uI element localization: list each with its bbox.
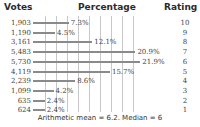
percentage-header: Percentage xyxy=(78,2,136,12)
rating-label: 7 xyxy=(180,48,190,56)
percentage-bar xyxy=(33,71,110,73)
rating-label: 9 xyxy=(180,29,190,37)
gridline xyxy=(133,16,134,112)
percentage-bar xyxy=(33,41,92,43)
percentage-label: 2.4% xyxy=(47,97,65,105)
percentage-label: 4.5% xyxy=(57,29,75,37)
rating-label: 10 xyxy=(180,19,190,27)
percentage-label: 4.2% xyxy=(56,87,74,95)
percentage-label: 12.1% xyxy=(94,38,116,46)
rating-label: 6 xyxy=(180,58,190,66)
gridline xyxy=(100,16,101,112)
summary-statistics: Arithmetic mean = 6.2. Median = 6 xyxy=(0,114,200,122)
percentage-label: 21.9% xyxy=(142,58,164,66)
votes-header: Votes xyxy=(4,2,32,12)
vote-count: 2,239 xyxy=(0,77,31,85)
vote-count: 1,190 xyxy=(0,29,31,37)
gridline xyxy=(78,16,79,112)
vote-count: 5,730 xyxy=(0,58,31,66)
percentage-bar xyxy=(33,22,69,24)
gridline xyxy=(89,16,90,112)
rating-label: 4 xyxy=(180,77,190,85)
vote-count: 4,119 xyxy=(0,68,31,76)
rating-label: 3 xyxy=(180,87,190,95)
rating-header: Rating xyxy=(164,2,197,12)
percentage-bar xyxy=(33,90,54,92)
rating-label: 5 xyxy=(180,68,190,76)
percentage-label: 8.6% xyxy=(77,77,95,85)
percentage-bar xyxy=(33,109,45,111)
percentage-label: 20.9% xyxy=(137,48,159,56)
gridline xyxy=(111,16,112,112)
rating-label: 8 xyxy=(180,38,190,46)
vote-count: 1,903 xyxy=(0,19,31,27)
percentage-label: 7.3% xyxy=(71,19,89,27)
percentage-bar xyxy=(33,51,135,53)
rating-label: 2 xyxy=(180,97,190,105)
vote-count: 635 xyxy=(0,97,31,105)
percentage-label: 15.7% xyxy=(112,68,134,76)
vote-count: 1,099 xyxy=(0,87,31,95)
percentage-bar xyxy=(33,61,140,63)
vote-count: 5,483 xyxy=(0,48,31,56)
percentage-bar xyxy=(33,100,45,102)
vote-count: 3,161 xyxy=(0,38,31,46)
gridline xyxy=(122,16,123,112)
percentage-bar xyxy=(33,32,55,34)
percentage-bar xyxy=(33,80,75,82)
